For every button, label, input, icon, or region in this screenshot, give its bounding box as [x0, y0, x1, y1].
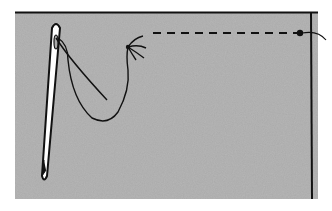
illustration: Needle and thread on fabric with running…	[0, 0, 332, 211]
needle-eye	[54, 35, 58, 49]
needle-and-thread-drawing	[0, 0, 332, 211]
